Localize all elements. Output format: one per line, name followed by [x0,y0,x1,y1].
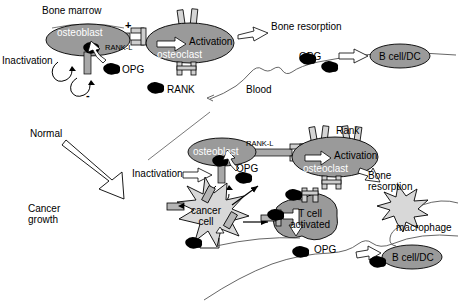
inactivation-arrow-bottom [183,168,212,182]
bone-resorption-label-top: Bone resorption [271,21,342,32]
activation-label-bottom: Activation [334,150,377,161]
normal-label: Normal [30,128,62,139]
rank-label-bottom: Rank [336,125,359,136]
cancer-growth-label-1: Cancer [28,203,60,214]
osteoclast-prongs-top [177,9,198,25]
cancer-cell-label-1: cancer [185,205,227,216]
activation-label-top: Activation [189,36,232,47]
bone-marrow-title: Bone marrow [42,5,101,16]
rank-receptor-bracket-top [131,28,146,45]
opg-label-blood-bottom: OPG [314,244,336,255]
opg-blob-blood-2 [321,61,338,73]
rank-label-top: RANK [167,84,195,95]
bone-resorption-arrow-top [238,27,268,41]
blood-label-top: Blood [246,84,272,95]
opg-blob-free-top [103,63,120,75]
minus-sign-top: - [86,90,90,101]
blood-vessel-wall-bottom-2 [216,238,300,246]
cancer-to-osteoblast-arrow [232,186,258,205]
macrophage-label: macrophage [396,222,452,233]
cancer-growth-label-2: growth [28,214,58,225]
inactivation-label-top: Inactivation [2,55,53,66]
rank-blob-top [147,82,164,94]
osteoblast-stalk-top [84,52,91,74]
inactivation-label-bottom: Inactivation [132,168,183,179]
inactivation-hook-1-head [69,66,76,71]
osteoblast-label-bottom: osteoblast [193,146,239,157]
osteoclast-anchor-bottom [322,176,341,189]
macrophage-pointer [422,201,458,205]
opg-label-top: OPG [122,64,144,75]
normal-to-cancer-arrow [62,140,124,199]
rank-blob-bottom [285,189,302,201]
osteoclast-label-top: osteoclast [157,49,202,60]
rankl-label-top: RANK-L [105,42,133,53]
osteoclast-label-bottom: osteoclast [303,163,348,174]
inactivation-hook-1 [52,62,72,81]
osteoclast-anchor-top [177,62,196,75]
bone-resorption-label-2: resorption [368,181,412,192]
bcell-secretion-arrow-top [339,49,368,63]
cancer-factor-blob [185,237,202,249]
plus-sign-top: + [125,20,131,31]
osteoblast-label-top: osteoblast [57,27,103,38]
tcell-label-1: T cell [287,208,333,219]
inactivation-hook-2-head [88,80,95,85]
opg-blob-blood-3 [292,246,309,258]
tcell-label-2: activated [283,219,337,230]
rankl-label-bottom: RANK-L [246,138,274,149]
opg-label-blood-top: OPG [299,51,321,62]
figure-canvas: Bone marrow osteoblast + RANK-L - Inacti… [0,0,458,307]
opg-label-bottom: OPG [236,163,258,174]
bone-resorption-label-1: Bone [368,170,391,181]
osteoblast-stalk-bottom [218,165,225,183]
bcell-dc-label-top: B cell/DC [379,51,421,62]
bcell-dc-label-bottom: B cell/DC [392,252,434,263]
cancer-cell-label-2: cell [185,216,227,227]
